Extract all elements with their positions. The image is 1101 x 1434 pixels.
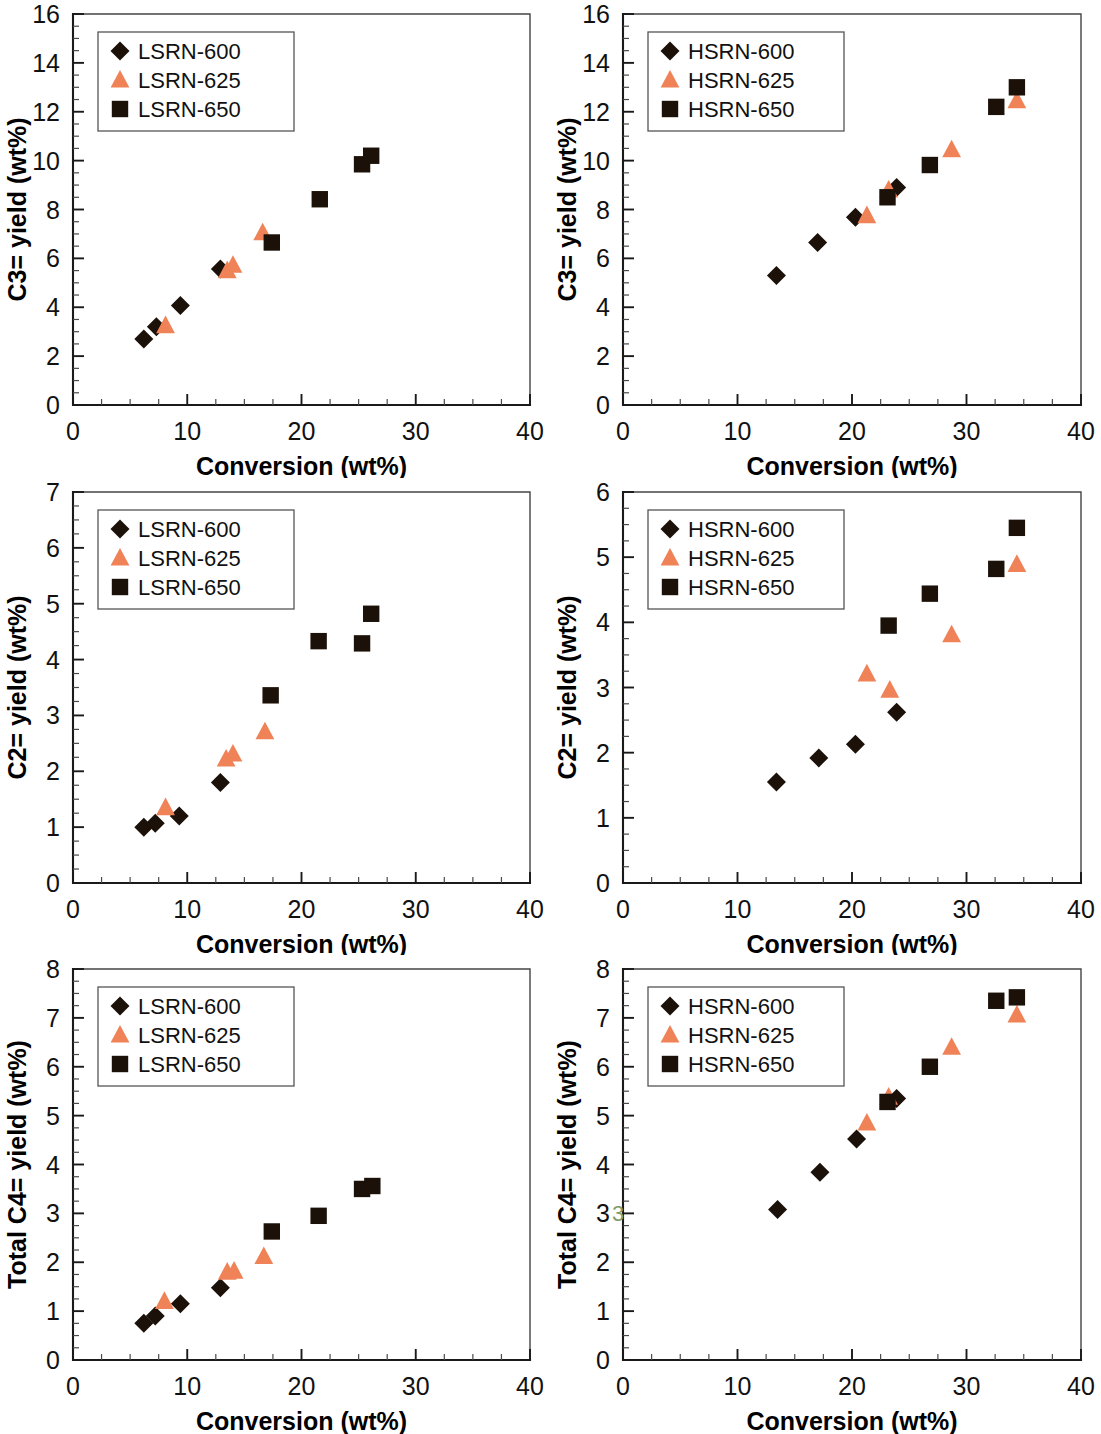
y-tick-label: 2	[596, 1248, 610, 1276]
x-axis-ticks	[623, 394, 1081, 405]
legend: LSRN-600LSRN-625LSRN-650	[98, 510, 294, 609]
chart-svg-c3-hsrn: 0246810121416010203040Conversion (wt%)C3…	[550, 0, 1101, 478]
data-point-square	[310, 633, 326, 649]
legend: HSRN-600HSRN-625HSRN-650	[648, 32, 844, 131]
legend-square-icon	[112, 1056, 128, 1072]
data-point-triangle	[857, 664, 876, 682]
legend-label: LSRN-600	[138, 39, 241, 64]
figure-grid: 0246810121416010203040Conversion (wt%)C3…	[0, 0, 1101, 1434]
x-axis-ticks	[623, 872, 1081, 883]
x-tick-label: 40	[516, 895, 544, 923]
legend: HSRN-600HSRN-625HSRN-650	[648, 987, 844, 1086]
y-tick-label: 14	[32, 49, 60, 77]
x-axis-title: Conversion (wt%)	[746, 1407, 957, 1434]
data-point-diamond	[810, 1163, 829, 1182]
y-tick-label: 0	[596, 391, 610, 419]
x-tick-label: 10	[724, 417, 752, 445]
data-point-square	[879, 189, 895, 205]
y-tick-label: 0	[46, 1346, 60, 1374]
legend-label: LSRN-625	[138, 68, 241, 93]
data-point-diamond	[846, 735, 865, 754]
x-axis-title: Conversion (wt%)	[196, 452, 407, 478]
legend-label: HSRN-625	[688, 68, 794, 93]
data-point-triangle	[942, 140, 961, 158]
x-tick-label: 10	[173, 1372, 201, 1400]
x-tick-label: 40	[516, 1372, 544, 1400]
data-point-square	[264, 1223, 280, 1239]
x-tick-label: 30	[953, 417, 981, 445]
data-point-square	[1009, 520, 1025, 536]
y-axis-ticks	[73, 492, 84, 883]
y-tick-label: 16	[32, 0, 60, 28]
x-tick-label: 30	[953, 895, 981, 923]
y-tick-label: 3	[46, 701, 60, 729]
data-point-diamond	[211, 773, 230, 792]
y-tick-label: 1	[596, 1297, 610, 1325]
y-axis-title: Total C4= yield (wt%)	[3, 1040, 31, 1289]
data-point-diamond	[211, 1278, 230, 1297]
y-tick-label: 7	[46, 1004, 60, 1032]
legend-square-icon	[662, 101, 678, 117]
scan-artifact-digit: 3	[612, 1201, 624, 1226]
data-point-square	[310, 1208, 326, 1224]
data-point-triangle	[857, 1113, 876, 1131]
y-tick-label: 3	[596, 1199, 610, 1227]
x-tick-labels: 010203040	[616, 417, 1095, 445]
data-point-square	[354, 635, 370, 651]
x-tick-label: 30	[402, 895, 430, 923]
x-tick-labels: 010203040	[66, 417, 544, 445]
x-tick-label: 10	[724, 895, 752, 923]
y-tick-label: 8	[46, 196, 60, 224]
x-tick-label: 20	[288, 895, 316, 923]
x-tick-label: 20	[288, 417, 316, 445]
x-tick-label: 0	[616, 1372, 630, 1400]
y-axis-ticks	[73, 14, 84, 405]
x-axis-title: Conversion (wt%)	[196, 930, 407, 955]
series-points-LSRN-600	[134, 773, 230, 837]
chart-svg-c2-lsrn: 01234567010203040Conversion (wt%)C2= yie…	[0, 478, 550, 955]
data-point-triangle	[1007, 554, 1026, 572]
data-point-triangle	[942, 1037, 961, 1055]
data-point-triangle	[256, 722, 275, 740]
y-tick-label: 5	[596, 543, 610, 571]
legend-label: LSRN-625	[138, 546, 241, 571]
y-tick-labels: 0123456	[596, 478, 610, 897]
legend-label: HSRN-650	[688, 97, 794, 122]
x-tick-labels: 010203040	[66, 895, 544, 923]
legend: HSRN-600HSRN-625HSRN-650	[648, 510, 844, 609]
y-tick-labels: 01234567	[46, 478, 60, 897]
data-point-square	[988, 99, 1004, 115]
y-axis-title: C3= yield (wt%)	[3, 117, 31, 301]
data-point-square	[363, 148, 379, 164]
legend: LSRN-600LSRN-625LSRN-650	[98, 32, 294, 131]
series-points-HSRN-600	[767, 703, 906, 792]
x-tick-label: 40	[1067, 895, 1095, 923]
y-tick-label: 7	[46, 478, 60, 506]
legend-square-icon	[112, 579, 128, 595]
series-points-LSRN-600	[134, 1278, 230, 1333]
data-point-square	[922, 1059, 938, 1075]
series-points-LSRN-650	[262, 606, 379, 704]
y-axis-title: Total C4= yield (wt%)	[553, 1040, 581, 1289]
y-tick-label: 2	[596, 342, 610, 370]
x-axis-ticks	[73, 394, 530, 405]
legend-label: HSRN-625	[688, 1023, 794, 1048]
y-tick-label: 1	[596, 804, 610, 832]
y-axis-ticks	[623, 14, 634, 405]
legend-square-icon	[662, 1056, 678, 1072]
y-axis-title: C2= yield (wt%)	[3, 595, 31, 779]
y-tick-label: 4	[596, 608, 610, 636]
data-point-triangle	[880, 680, 899, 698]
legend: LSRN-600LSRN-625LSRN-650	[98, 987, 294, 1086]
y-tick-label: 2	[596, 739, 610, 767]
data-point-square	[988, 993, 1004, 1009]
y-tick-label: 14	[582, 49, 610, 77]
series-points-LSRN-600	[134, 259, 230, 348]
x-axis-ticks	[623, 1349, 1081, 1360]
y-tick-label: 1	[46, 1297, 60, 1325]
y-tick-label: 16	[582, 0, 610, 28]
x-axis-ticks	[73, 872, 530, 883]
y-tick-label: 6	[46, 1053, 60, 1081]
chart-svg-c2-hsrn: 0123456010203040Conversion (wt%)C2= yiel…	[550, 478, 1101, 955]
y-tick-label: 4	[46, 646, 60, 674]
